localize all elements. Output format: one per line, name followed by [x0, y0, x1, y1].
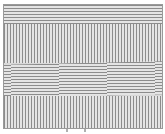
line-pattern-figure	[3, 4, 163, 129]
horizontal-lines-band-2	[4, 61, 162, 97]
bottom-mark-b	[84, 129, 86, 132]
horizontal-lines-band-1	[4, 5, 162, 24]
bottom-mark-a	[66, 129, 68, 132]
vertical-lines-band-1	[4, 24, 162, 63]
vertical-lines-band-2	[4, 96, 162, 129]
